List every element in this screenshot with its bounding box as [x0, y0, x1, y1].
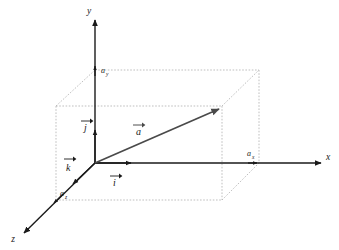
- unit-vector-k-arrow: [73, 163, 95, 184]
- unit-vector-k-overarrow-head: [73, 157, 76, 162]
- z-axis-label: z: [10, 234, 15, 244]
- vector-a-overarrow-head: [142, 123, 145, 128]
- unit-vector-j: j: [81, 119, 95, 163]
- unit-vector-j-label: j: [82, 122, 87, 133]
- component-markers: [54, 66, 257, 203]
- ay-label-subscript: y: [105, 71, 109, 77]
- x-axis-label: x: [325, 152, 331, 162]
- axes-group: [24, 20, 321, 233]
- unit-vector-i: i: [95, 163, 131, 188]
- box-edge-receding-top-left: [56, 70, 95, 106]
- component-label-ay: a y: [101, 66, 109, 77]
- ay-label-base: a: [101, 66, 105, 75]
- ax-label-subscript: x: [251, 154, 255, 160]
- vector-diagram-figure: y x z a y a x a z j i k: [0, 0, 339, 250]
- vector-diagram-canvas: y x z a y a x a z j i k: [0, 0, 339, 250]
- unit-vector-i-label: i: [113, 177, 116, 188]
- unit-vector-k-label: k: [66, 162, 71, 173]
- unit-vector-j-overarrow-head: [90, 119, 93, 124]
- az-label-base: a: [60, 189, 64, 198]
- vector-a-label: a: [136, 126, 141, 137]
- ax-label-base: a: [247, 149, 251, 158]
- unit-vector-k: k: [64, 157, 95, 184]
- unit-vector-i-overarrow-head: [119, 174, 122, 179]
- component-label-ax: a x: [247, 149, 255, 160]
- az-label-subscript: z: [64, 194, 68, 200]
- vector-a: a: [95, 109, 219, 163]
- box-edge-receding-top-right: [222, 70, 259, 106]
- y-axis-label: y: [86, 6, 92, 16]
- box-edge-receding-bottom-right: [222, 163, 259, 200]
- vector-a-arrow: [95, 109, 219, 163]
